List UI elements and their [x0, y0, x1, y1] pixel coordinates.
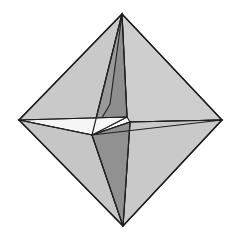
polyhedron-svg [0, 0, 239, 241]
polyhedron-figure [0, 0, 239, 241]
